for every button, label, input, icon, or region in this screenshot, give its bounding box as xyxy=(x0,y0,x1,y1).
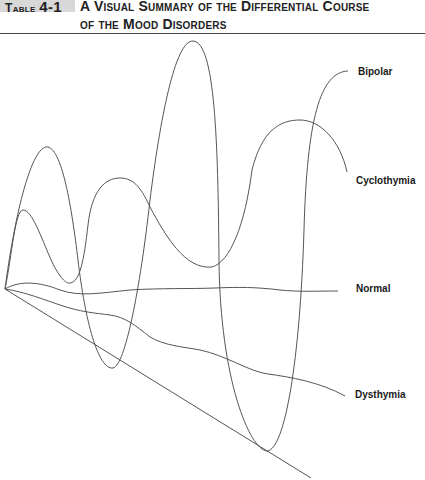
bipolar-curve xyxy=(5,41,348,451)
dysthymia-curve xyxy=(5,289,345,396)
label-bipolar: Bipolar xyxy=(358,66,392,77)
label-cyclothymia: Cyclothymia xyxy=(356,175,415,186)
diagonal-reference-line xyxy=(5,289,311,478)
label-dysthymia: Dysthymia xyxy=(355,389,406,400)
cyclothymia-curve xyxy=(5,120,347,289)
label-normal: Normal xyxy=(356,283,390,294)
normal-curve xyxy=(5,283,338,294)
